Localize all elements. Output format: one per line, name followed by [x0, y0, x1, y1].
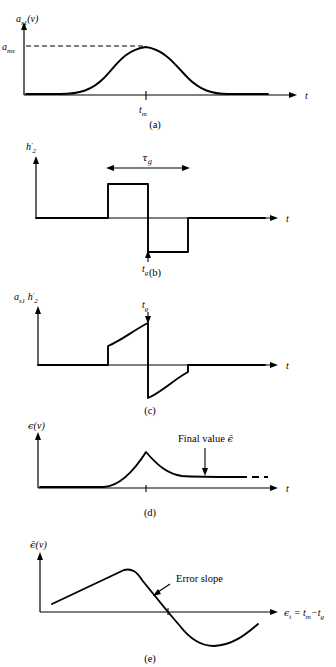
panel-e-annotation-arrow: [153, 589, 161, 596]
panel-c-y-arrow: [35, 306, 41, 314]
panel-b-x-label: t: [286, 213, 289, 224]
panel-c-x-label: t: [286, 360, 289, 371]
panel-c-y-label: as1 h′2: [14, 291, 38, 305]
panel-a-envelope-curve: [26, 47, 268, 94]
panel-a-y-label: as1(v): [16, 13, 39, 27]
panel-b-x-arrow: [270, 215, 278, 221]
panel-c-x-arrow: [270, 362, 278, 368]
panel-e-y-label: ϵ̄(v): [30, 539, 47, 551]
panel-a-x-arrow: [289, 92, 297, 98]
panel-e-s-curve: [52, 569, 258, 646]
panel-d-y-label: ϵ(v): [28, 420, 45, 432]
panel-d-plot: (c) ϵ(v) Final value ϵ̄ t (d): [0, 404, 336, 524]
panel-c-caption: (c): [144, 405, 156, 417]
panel-e-x-label: ϵt = tm−tg: [284, 607, 324, 621]
panel-d: (c) ϵ(v) Final value ϵ̄ t (d): [0, 404, 336, 524]
panel-d-x-label: t: [286, 483, 289, 494]
panel-d-annotation-label: Final value ϵ̄: [178, 433, 234, 444]
panel-a-tm-label: tm: [139, 104, 147, 118]
panel-b-span-arrow-right: [182, 165, 190, 171]
panel-e-caption: (e): [144, 653, 156, 665]
panel-b-y-arrow: [33, 156, 39, 164]
panel-d-error-curve: [40, 452, 240, 487]
panel-b-span-arrow-left: [106, 165, 114, 171]
panel-c-tg-pointer-arrow: [145, 316, 151, 324]
panel-b-y-label: h′2: [26, 141, 37, 155]
panel-e-annotation-label: Error slope: [176, 573, 223, 584]
panel-b-caption: (b): [149, 267, 162, 279]
panel-c-tg-label: tg: [142, 299, 149, 313]
panel-e-y-arrow: [37, 552, 43, 560]
panel-b: h′2 τg t tg: [0, 128, 336, 273]
figure-container: as1(v) ams t tm (a): [0, 0, 336, 667]
panel-e-x-arrow: [270, 609, 278, 615]
panel-a-plot: as1(v) ams t tm (a): [0, 0, 336, 130]
panel-b-plot: h′2 τg t tg: [0, 128, 336, 273]
panel-a-ymax-label: ams: [2, 41, 15, 55]
panel-e: ϵ̄(v) Error slope ϵt = tm−tg (e): [0, 520, 336, 667]
panel-c: (b) as1 h′2 tg t: [0, 268, 336, 408]
panel-b-span-label: τg: [142, 152, 153, 166]
panel-d-x-arrow: [270, 485, 278, 491]
panel-e-annotation-line: [158, 584, 170, 592]
panel-d-caption: (d): [144, 507, 157, 519]
panel-e-plot: ϵ̄(v) Error slope ϵt = tm−tg (e): [0, 520, 336, 667]
panel-d-y-arrow: [35, 432, 41, 440]
panel-d-annotation-arrow: [202, 468, 208, 476]
panel-a-x-label: t: [305, 90, 308, 101]
panel-c-plot: (b) as1 h′2 tg t: [0, 268, 336, 408]
panel-c-product-waveform: [38, 323, 265, 398]
panel-a: as1(v) ams t tm (a): [0, 0, 336, 130]
